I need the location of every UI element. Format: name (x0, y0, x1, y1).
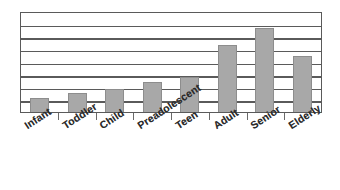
bar-slot (246, 13, 284, 112)
bar-adult[interactable] (218, 45, 237, 112)
bar-slot (134, 13, 172, 112)
bar-elderly[interactable] (293, 56, 312, 112)
bar-chart-figure: InfantToddlerChildPreadolescentTeenAdult… (0, 0, 340, 190)
x-axis-labels: InfantToddlerChildPreadolescentTeenAdult… (0, 113, 340, 190)
bar-slot (96, 13, 134, 112)
bar-slot (21, 13, 59, 112)
bar-slot (284, 13, 322, 112)
bar-senior[interactable] (255, 28, 274, 112)
bar-slot (209, 13, 247, 112)
bar-slot (59, 13, 97, 112)
